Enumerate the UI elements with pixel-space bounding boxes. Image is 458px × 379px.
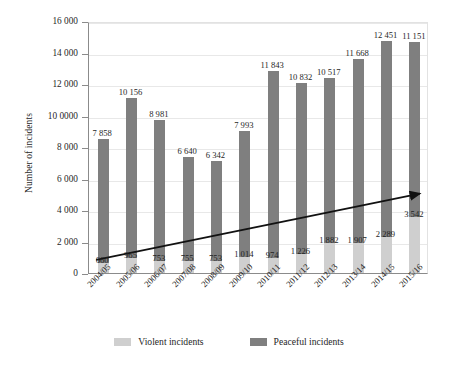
- y-axis-tick-label: 4 000: [8, 205, 78, 215]
- bar-label-peaceful: 11 151: [391, 31, 437, 41]
- gridline: [89, 23, 427, 24]
- gridline: [89, 181, 427, 182]
- stacked-bar[interactable]: [154, 120, 165, 273]
- bar-segment-peaceful[interactable]: [183, 157, 194, 262]
- stacked-bar[interactable]: [268, 71, 279, 273]
- gridline: [89, 149, 427, 150]
- bar-segment-peaceful[interactable]: [296, 83, 307, 254]
- bar-label-peaceful: 10 517: [306, 67, 352, 77]
- bar-segment-peaceful[interactable]: [98, 139, 109, 263]
- bar-label-peaceful: 7 993: [221, 120, 267, 130]
- bar-label-peaceful: 11 843: [249, 60, 295, 70]
- chart-legend: Violent incidentsPeaceful incidents: [0, 336, 458, 347]
- bar-label-peaceful: 8 981: [136, 109, 182, 119]
- stacked-bar[interactable]: [409, 42, 420, 273]
- legend-entry[interactable]: Peaceful incidents: [250, 336, 344, 347]
- chart-figure: Number of incidents 02 0004 0006 0008 00…: [0, 0, 458, 379]
- bar-segment-peaceful[interactable]: [268, 71, 279, 258]
- bar-segment-peaceful[interactable]: [353, 59, 364, 243]
- y-axis-tick-label: 6 000: [8, 174, 78, 184]
- y-axis-tick-mark: [82, 274, 88, 275]
- bar-segment-peaceful[interactable]: [324, 78, 335, 244]
- bar-segment-peaceful[interactable]: [211, 161, 222, 261]
- y-axis-tick-label: 16 000: [8, 16, 78, 26]
- stacked-bar[interactable]: [126, 98, 137, 273]
- stacked-bar[interactable]: [98, 139, 109, 273]
- y-axis-tick-label: 0: [8, 268, 78, 278]
- y-axis-tick-label: 8 000: [8, 142, 78, 152]
- legend-entry[interactable]: Violent incidents: [114, 336, 203, 347]
- bar-segment-peaceful[interactable]: [154, 120, 165, 261]
- legend-swatch: [114, 338, 131, 346]
- y-axis-tick-label: 10 0000: [8, 111, 78, 121]
- bar-label-peaceful: 11 668: [334, 48, 380, 58]
- gridline: [89, 212, 427, 213]
- bar-segment-peaceful[interactable]: [239, 131, 250, 257]
- bar-segment-peaceful[interactable]: [126, 98, 137, 258]
- bar-segment-peaceful[interactable]: [409, 42, 420, 218]
- legend-swatch: [250, 338, 267, 346]
- y-axis-tick-label: 2 000: [8, 237, 78, 247]
- bar-label-peaceful: 7 858: [79, 128, 125, 138]
- bar-label-violent: 3 542: [394, 209, 434, 219]
- y-axis-tick-label: 14 000: [8, 48, 78, 58]
- bar-label-violent: 1 226: [281, 246, 321, 256]
- y-axis-tick-label: 12 000: [8, 79, 78, 89]
- legend-label: Violent incidents: [138, 336, 203, 347]
- bar-label-violent: 2 289: [366, 229, 406, 239]
- legend-label: Peaceful incidents: [274, 336, 344, 347]
- bar-label-peaceful: 6 342: [193, 150, 239, 160]
- stacked-bar[interactable]: [296, 83, 307, 273]
- bar-segment-peaceful[interactable]: [381, 41, 392, 237]
- bar-label-peaceful: 10 156: [108, 87, 154, 97]
